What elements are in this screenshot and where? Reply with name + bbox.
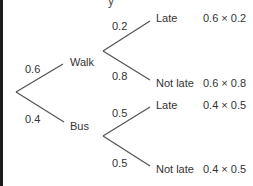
product-bus-not-late: 0.4 × 0.5 [203, 163, 246, 175]
prob-walk-late: 0.2 [112, 20, 127, 32]
outcome-bus-late: Late [156, 99, 177, 111]
prob-bus-not-late: 0.5 [112, 157, 127, 169]
prob-walk-not-late: 0.8 [112, 70, 127, 82]
prob-bus: 0.4 [25, 113, 40, 125]
product-walk-not-late: 0.6 × 0.8 [203, 77, 246, 89]
product-walk-late: 0.6 × 0.2 [203, 12, 246, 24]
product-bus-late: 0.4 × 0.5 [203, 99, 246, 111]
outcome-walk: Walk [70, 56, 94, 68]
prob-walk: 0.6 [25, 63, 40, 75]
outcome-bus-not-late: Not late [156, 163, 194, 175]
outcome-walk-not-late: Not late [156, 77, 194, 89]
outcome-walk-late: Late [156, 12, 177, 24]
outcome-bus: Bus [70, 120, 89, 132]
prob-bus-late: 0.5 [112, 107, 127, 119]
